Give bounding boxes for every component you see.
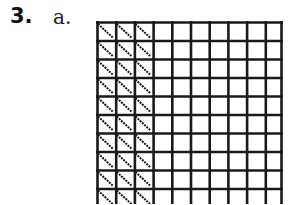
problem-number: 3.: [10, 4, 33, 28]
hatch-line: [135, 98, 150, 112]
hatch-line: [117, 61, 132, 75]
hatch-line: [117, 80, 132, 94]
hatch-line: [98, 135, 113, 149]
hatch-line: [117, 191, 132, 205]
hatch-line: [98, 98, 113, 112]
hatch-line: [117, 135, 132, 149]
hatch-line: [135, 154, 150, 168]
hatch-line: [117, 154, 132, 168]
hatch-line: [98, 117, 113, 131]
hatch-line: [117, 117, 132, 131]
hatch-line: [98, 24, 113, 38]
hatch-line: [135, 135, 150, 149]
hatch-line: [117, 43, 132, 57]
hatch-line: [98, 172, 113, 186]
hatch-line: [135, 172, 150, 186]
hatch-line: [117, 24, 132, 38]
hatch-line: [98, 43, 113, 57]
problem-part-label: a.: [53, 5, 71, 29]
hatch-line: [135, 43, 150, 57]
hatch-line: [117, 172, 132, 186]
hatch-line: [98, 154, 113, 168]
hatch-line: [135, 24, 150, 38]
hatch-line: [98, 191, 113, 205]
hatch-line: [135, 117, 150, 131]
hatch-line: [135, 80, 150, 94]
hatch-line: [117, 98, 132, 112]
hatch-line: [135, 61, 150, 75]
hundred-grid: [96, 21, 286, 204]
hatch-line: [135, 191, 150, 205]
grid-figure: [96, 21, 286, 204]
hatch-line: [98, 80, 113, 94]
hatch-line: [98, 61, 113, 75]
